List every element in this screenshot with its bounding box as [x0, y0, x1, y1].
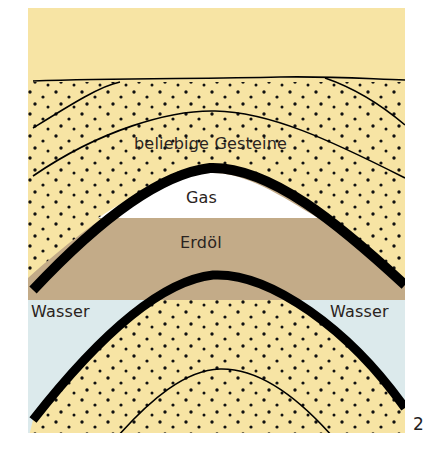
- figure-number: 2: [413, 414, 424, 434]
- label-oil: Erdöl: [180, 233, 222, 252]
- label-water-left: Wasser: [31, 302, 90, 321]
- label-water-right: Wasser: [330, 302, 389, 321]
- label-gas: Gas: [186, 188, 217, 207]
- trap-diagram: [0, 0, 444, 462]
- label-rock: beliebige Gesteine: [134, 134, 287, 153]
